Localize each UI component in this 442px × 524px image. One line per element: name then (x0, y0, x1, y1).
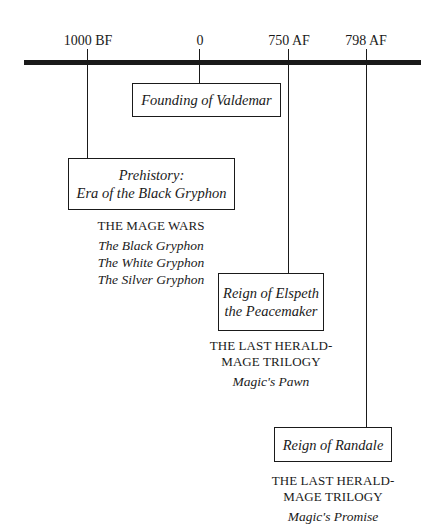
tick-label-798af: 798 AF (345, 33, 387, 49)
event-title-line2: the Peacemaker (225, 302, 318, 320)
book-title: Magic's Pawn (210, 373, 333, 390)
book-title: The Silver Gryphon (97, 271, 204, 288)
caption-mage-wars: THE MAGE WARS The Black Gryphon The Whit… (97, 218, 204, 288)
event-title: Founding of Valdemar (141, 91, 272, 109)
timeline-axis (24, 60, 421, 65)
connector-0 (199, 49, 200, 83)
event-box-elspeth: Reign of Elspeth the Peacemaker (218, 273, 324, 331)
series-title-line1: THE LAST HERALD- (272, 473, 395, 489)
event-box-prehistory: Prehistory: Era of the Black Gryphon (68, 158, 235, 210)
caption-elspeth: THE LAST HERALD- MAGE TRILOGY Magic's Pa… (210, 338, 333, 390)
connector-1000bf (87, 49, 88, 159)
book-title: The White Gryphon (97, 254, 204, 271)
event-title: Reign of Randale (283, 436, 384, 454)
caption-randale: THE LAST HERALD- MAGE TRILOGY Magic's Pr… (272, 473, 395, 524)
connector-798af (366, 49, 367, 427)
series-title-line2: MAGE TRILOGY (210, 354, 333, 370)
event-box-founding: Founding of Valdemar (132, 83, 281, 117)
tick-label-750af: 750 AF (268, 33, 310, 49)
series-title: THE MAGE WARS (97, 218, 204, 234)
connector-750af (288, 49, 289, 274)
event-box-randale: Reign of Randale (274, 427, 392, 462)
event-title-line1: Prehistory: (119, 166, 185, 184)
event-title-line2: Era of the Black Gryphon (77, 184, 227, 202)
tick-label-0: 0 (197, 33, 204, 49)
book-title: The Black Gryphon (97, 237, 204, 254)
tick-label-1000bf: 1000 BF (64, 33, 113, 49)
book-title: Magic's Promise (272, 508, 395, 524)
series-title-line2: MAGE TRILOGY (272, 489, 395, 505)
series-title-line1: THE LAST HERALD- (210, 338, 333, 354)
event-title-line1: Reign of Elspeth (223, 284, 319, 302)
